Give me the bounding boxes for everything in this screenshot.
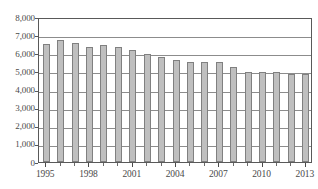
y-axis-tick-mark [35,18,38,19]
x-axis-minor-tick [189,163,190,166]
y-axis-tick-label: 3,000 [15,104,35,113]
bar [230,67,237,162]
bar [129,50,136,162]
x-axis-minor-tick [247,163,248,166]
bar [115,47,122,162]
bar [187,62,194,162]
x-axis-major-tick [132,163,133,167]
y-axis-tick-label: 4,000 [15,86,35,95]
y-axis-tick-mark [35,36,38,37]
bar [57,40,64,162]
x-axis-minor-tick [60,163,61,166]
y-axis-tick-label: 8,000 [15,14,35,23]
x-axis-minor-tick [103,163,104,166]
bar [288,74,295,162]
x-axis-tick-label: 2004 [166,168,185,180]
x-axis-major-tick [175,163,176,167]
bar [259,72,266,162]
y-axis-tick-label: 2,000 [15,122,35,131]
x-axis-minor-tick [276,163,277,166]
y-axis-tick-mark [35,127,38,128]
x-axis-tick-label: 1995 [36,168,55,180]
x-axis-tick-label: 2010 [252,168,271,180]
y-axis-tick-mark [35,54,38,55]
bar-chart: 01,0002,0003,0004,0005,0006,0007,0008,00… [0,0,318,189]
y-axis-tick-label: 6,000 [15,50,35,59]
x-axis-tick-label: 2007 [209,168,228,180]
y-axis-tick-mark [35,72,38,73]
x-axis-minor-tick [117,163,118,166]
x-axis-tick-label: 2013 [295,168,314,180]
y-axis-tick-mark [35,163,38,164]
y-axis-tick-label: 1,000 [15,140,35,149]
x-axis-tick-label: 2001 [122,168,141,180]
bar [86,47,93,162]
bar [173,60,180,162]
bar [158,57,165,162]
x-axis-major-tick [45,163,46,167]
x-axis-minor-tick [290,163,291,166]
bar [100,45,107,162]
x-axis-major-tick [262,163,263,167]
x-axis-minor-tick [74,163,75,166]
bar [216,62,223,162]
x-axis-minor-tick [204,163,205,166]
bar [302,74,309,162]
bar [144,54,151,162]
bar [72,43,79,162]
y-axis-tick-mark [35,145,38,146]
bar [43,44,50,162]
x-axis-major-tick [218,163,219,167]
x-axis-major-tick [305,163,306,167]
bar [201,62,208,162]
plot-area [38,18,312,163]
bar-series [39,19,311,162]
y-axis-tick-label: 5,000 [15,68,35,77]
y-axis-tick-label: 7,000 [15,32,35,41]
x-axis-labels: 1995199820012004200720102013 [0,168,318,188]
x-axis-minor-tick [146,163,147,166]
y-axis-labels: 01,0002,0003,0004,0005,0006,0007,0008,00… [0,0,35,189]
y-axis-tick-mark [35,91,38,92]
x-axis-tick-label: 1998 [79,168,98,180]
bar [245,72,252,162]
x-axis-minor-tick [161,163,162,166]
x-axis-major-tick [88,163,89,167]
y-axis-tick-mark [35,109,38,110]
bar [273,72,280,162]
x-axis-minor-tick [233,163,234,166]
